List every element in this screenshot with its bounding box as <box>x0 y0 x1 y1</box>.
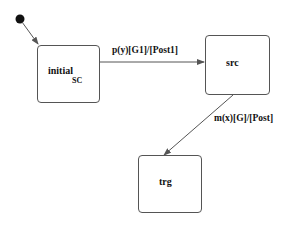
state-trg[interactable]: trg <box>138 155 202 213</box>
transition-arrow-src-to-trg <box>164 95 233 155</box>
state-initial[interactable]: initial SC <box>37 45 100 103</box>
state-initial-label: initial <box>48 65 73 76</box>
transition-arrow-start-to-initial <box>22 22 38 44</box>
state-src[interactable]: src <box>205 35 270 95</box>
state-trg-label: trg <box>159 176 172 187</box>
state-src-label: src <box>226 57 239 68</box>
transition-label-src-to-trg: m(x)[G]/[Post] <box>214 113 273 123</box>
transition-label-initial-to-src: p(y)[G1]/[Post1] <box>112 45 178 55</box>
initial-pseudostate-dot <box>16 15 25 24</box>
state-initial-subscript: SC <box>72 76 82 85</box>
